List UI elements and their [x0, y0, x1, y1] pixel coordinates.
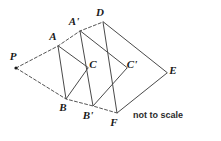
vertex-label-D: D [95, 6, 104, 18]
geometry-figure: PABCA'B'C'DEF not to scale [0, 0, 221, 141]
point-p-dot [14, 66, 17, 69]
not-to-scale-note: not to scale [133, 110, 183, 120]
vertex-label-P: P [10, 50, 17, 62]
vertex-dots-group [14, 66, 17, 69]
vertex-label-C: C [89, 58, 97, 70]
vertex-label-F: F [109, 116, 118, 128]
vertex-label-B-prime: B' [82, 109, 93, 121]
dashed-rays-group [16, 22, 117, 113]
vertex-label-A-prime: A' [68, 15, 79, 27]
figure-canvas: PABCA'B'C'DEF not to scale [0, 0, 221, 141]
triangles-group [58, 22, 167, 113]
vertex-label-E: E [168, 64, 176, 76]
vertex-label-A: A [48, 30, 56, 42]
vertex-label-B: B [58, 101, 66, 113]
vertex-label-C-prime: C' [127, 58, 137, 70]
